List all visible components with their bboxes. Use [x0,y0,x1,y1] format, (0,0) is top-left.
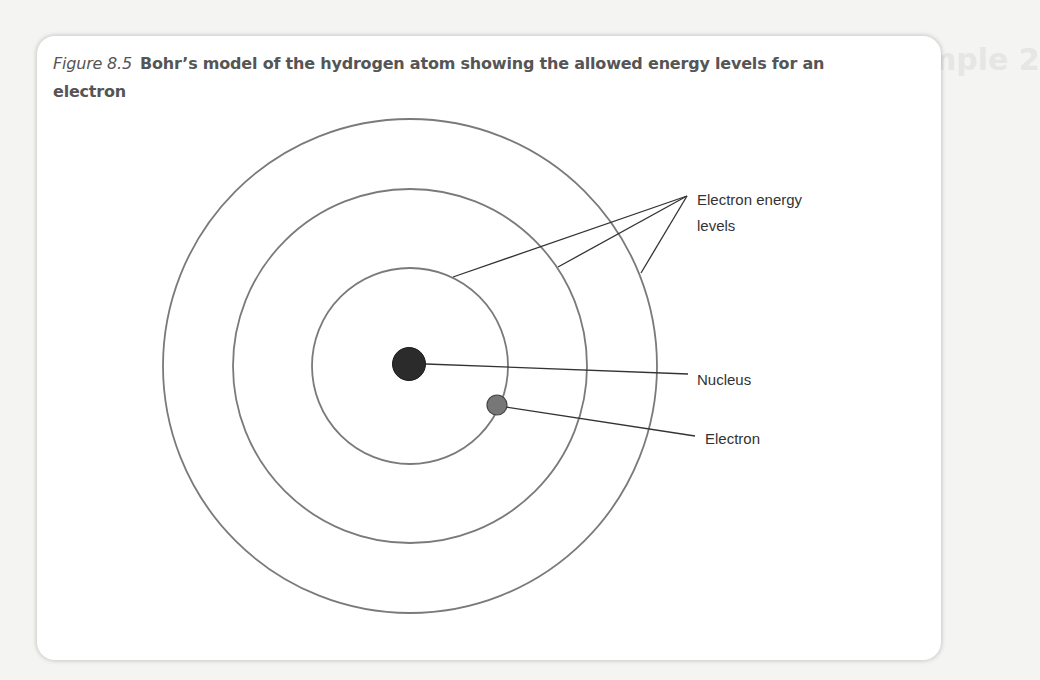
electron-leader [506,407,695,436]
label-energy-levels-line1: Electron energy [697,191,803,208]
electron [487,395,507,415]
label-energy-levels-line2: levels [697,217,735,234]
nucleus-leader [426,364,688,374]
label-electron: Electron [705,430,760,447]
nucleus [393,348,426,381]
label-nucleus: Nucleus [697,371,751,388]
